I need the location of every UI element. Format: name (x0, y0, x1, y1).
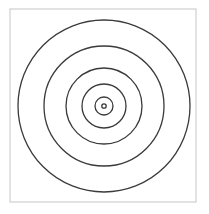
circle-ring-3 (66, 68, 142, 144)
circle-ring-6 (102, 104, 106, 108)
circle-ring-4 (82, 84, 126, 128)
circle-ring-2 (44, 46, 164, 166)
circle-group (18, 20, 190, 192)
circle-ring-5 (95, 97, 113, 115)
concentric-circles-diagram (0, 0, 209, 214)
square-frame (10, 9, 196, 202)
